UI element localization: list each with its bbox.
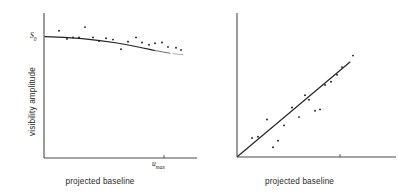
visibility-phase-panel: umax visibility phase projected baseline [200,0,399,192]
phase-fit-line [238,62,351,157]
y-axis-label: visibility amplitude [28,67,37,136]
amplitude-model-curve [45,37,183,55]
visibility-amplitude-panel: S0 umax visibility amplitude projected b… [0,0,200,192]
figure-container: S0 umax visibility amplitude projected b… [0,0,399,192]
x-tick-label-umax: umax [152,159,165,170]
phase-axes [237,13,396,157]
phase-plot-svg [200,0,399,192]
x-axis-label: projected baseline [0,177,200,186]
x-axis-label: projected baseline [200,177,399,186]
y-tick-label-s0: S0 [30,31,37,42]
amplitude-axes [44,13,197,158]
